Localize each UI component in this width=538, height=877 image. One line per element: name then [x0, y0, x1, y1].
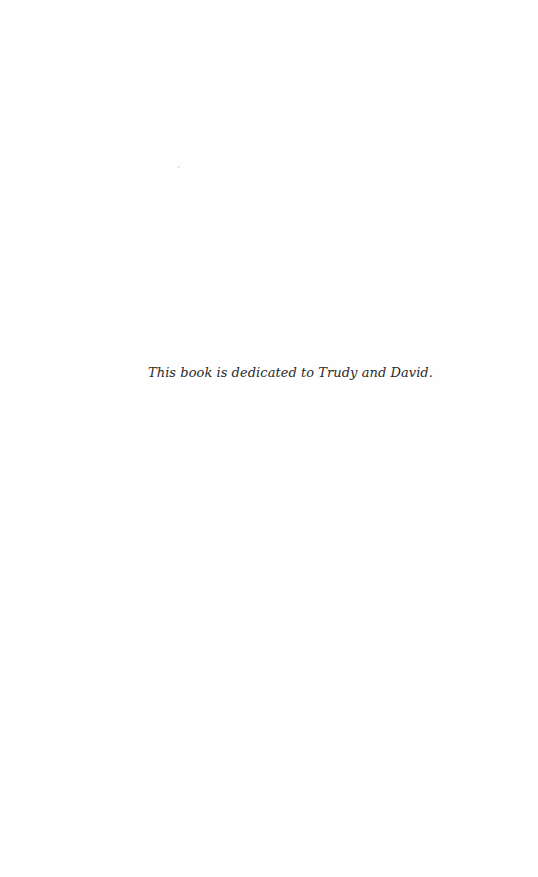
scan-speck [177, 166, 180, 168]
book-page: This book is dedicated to Trudy and Davi… [0, 0, 538, 877]
dedication-text: This book is dedicated to Trudy and Davi… [148, 364, 433, 382]
